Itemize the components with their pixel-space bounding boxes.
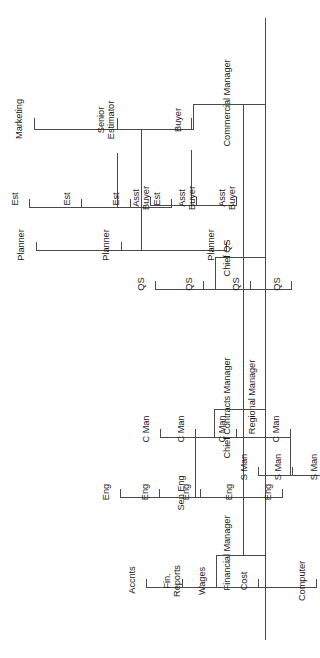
- commercial-rail-link: [193, 105, 194, 130]
- node-est-4: Est: [152, 178, 162, 220]
- stub-planner-2: [121, 242, 122, 251]
- stub-est-4: [171, 199, 172, 208]
- stub-buyer: [191, 118, 192, 130]
- root-spine: [265, 18, 266, 640]
- stub-qs-2: [203, 281, 204, 290]
- stub-marketing: [34, 118, 35, 130]
- node-s-man-1: S Man: [239, 443, 249, 491]
- chiefqs-trunk: [215, 257, 244, 258]
- node-buyer: Buyer: [173, 90, 183, 150]
- node-qs-3: QS: [231, 263, 241, 305]
- node-qs-1: QS: [136, 263, 146, 305]
- node-accnts: Accnts: [127, 555, 137, 605]
- root-stub-chiefqs: [243, 257, 266, 258]
- stub-c-man-1: [160, 429, 161, 438]
- planner-trunk: [141, 130, 142, 251]
- commercial-trunk: [193, 104, 244, 105]
- qs-rail: [155, 289, 271, 290]
- node-eng-5: Eng: [263, 470, 271, 514]
- planner-rail: [36, 250, 226, 251]
- node-eng-1: Eng: [101, 470, 111, 514]
- node-eng-3: Eng: [181, 470, 191, 514]
- stub-eng-2: [159, 489, 160, 498]
- root-stub-chiefcontracts: [243, 409, 266, 410]
- node-est-1: Est: [10, 178, 20, 220]
- stub-c-man-2: [195, 429, 196, 438]
- org-chart: Regional Manager Commercial Manager Mark…: [0, 0, 271, 658]
- stub-cost: [258, 579, 259, 588]
- node-asst-buyer-2: Asst Buyer: [177, 175, 197, 221]
- stub-est-2: [81, 199, 82, 208]
- node-fin-reports: Fin. Reports: [162, 553, 182, 609]
- stub-qs-1: [155, 281, 156, 290]
- stub-eng-3: [200, 489, 201, 498]
- node-est-3: Est: [111, 178, 121, 220]
- node-c-man-2: C Man: [176, 405, 186, 453]
- stub-qs-3: [250, 281, 251, 290]
- node-c-man-1: C Man: [141, 405, 151, 453]
- s-man-rail: [258, 475, 271, 476]
- node-eng-2: Eng: [140, 470, 150, 514]
- node-commercial-manager: Commercial Manager: [222, 54, 232, 152]
- node-planner-1: Planner: [16, 220, 26, 270]
- stub-senior-estimator: [117, 118, 118, 130]
- stub-eng-1: [120, 489, 121, 498]
- node-cost: Cost: [239, 556, 249, 606]
- node-c-man-3: C Man: [217, 405, 227, 453]
- stub-s-man-1: [258, 467, 259, 476]
- stub-c-man-3: [236, 429, 237, 438]
- stub-est-1: [29, 199, 30, 208]
- node-planner-2: Planner: [101, 220, 111, 270]
- chiefqs-children-trunk: [215, 258, 216, 290]
- node-qs-2: QS: [184, 263, 194, 305]
- node-asst-buyer-3: Asst Buyer: [217, 175, 237, 221]
- node-marketing: Marketing: [14, 89, 24, 149]
- node-senior-estimator: Senior Estimator: [96, 87, 116, 153]
- root-stub-commercial: [243, 104, 266, 105]
- stub-planner-1: [36, 242, 37, 251]
- stub-accnts: [146, 579, 147, 588]
- chiefcontracts-children-trunk: [214, 410, 215, 438]
- node-est-2: Est: [62, 178, 72, 220]
- node-wages: Wages: [197, 556, 207, 606]
- sen-eng-trunk: [195, 438, 196, 498]
- node-regional-manager: Regional Manager: [247, 347, 257, 447]
- node-financial-manager: Financial Manager: [222, 506, 232, 600]
- stub-wages: [216, 579, 217, 588]
